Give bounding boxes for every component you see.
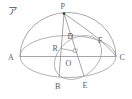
label-R: R xyxy=(53,44,59,53)
label-C: C xyxy=(120,53,125,62)
label-F: F xyxy=(98,36,103,45)
label-A: A xyxy=(8,53,14,62)
label-E: E xyxy=(83,81,88,90)
label-D: D xyxy=(68,32,74,41)
geometry-figure: ア P A C D F R O B E xyxy=(0,0,132,99)
hemisphere-diagram-svg: ア P A C D F R O B E xyxy=(0,0,132,99)
label-P: P xyxy=(61,2,66,11)
option-label: ア xyxy=(8,5,18,16)
label-O: O xyxy=(66,59,72,68)
point-P-dot xyxy=(63,12,66,15)
label-B: B xyxy=(55,82,60,91)
segment-R-foot xyxy=(61,49,74,52)
